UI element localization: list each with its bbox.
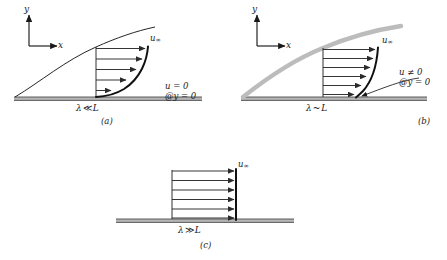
velocity-profile-curve-a xyxy=(96,47,148,98)
regime-length-a: L xyxy=(93,103,99,113)
freestream-velocity-label-c: u∞ xyxy=(238,160,249,171)
x-axis-label-b: x xyxy=(286,40,291,50)
panel-caption-c: (c) xyxy=(200,241,211,251)
velocity-arrows-b xyxy=(323,50,375,95)
regime-operator-c: ≫ xyxy=(184,225,195,235)
regime-label-a: λ≪L xyxy=(76,103,99,113)
flow-regimes-figure: y x u∞ u = 0 @y = 0 λ≪L (a) xyxy=(0,0,447,260)
freestream-subscript-c: ∞ xyxy=(243,162,248,170)
freestream-subscript-a: ∞ xyxy=(155,36,160,44)
axes-a xyxy=(29,15,57,46)
freestream-velocity-label-a: u∞ xyxy=(150,34,161,45)
wall-condition-a-line2: @y = 0 xyxy=(165,92,196,102)
panel-caption-a: (a) xyxy=(101,117,113,127)
flat-plate-c xyxy=(116,219,294,222)
regime-operator-a: ≪ xyxy=(82,103,93,113)
panel-c-graphic xyxy=(110,150,340,260)
wall-condition-a: u = 0 @y = 0 xyxy=(165,82,196,102)
flat-plate-b xyxy=(241,97,427,100)
regime-operator-b: ~ xyxy=(312,103,322,113)
freestream-velocity-label-b: u∞ xyxy=(382,36,393,47)
panel-b-graphic xyxy=(223,0,447,130)
regime-lambda-b: λ xyxy=(306,103,312,113)
wall-condition-b-line2: @y = 0 xyxy=(399,78,430,88)
panel-a: y x u∞ u = 0 @y = 0 λ≪L (a) xyxy=(0,0,223,130)
axes-b xyxy=(257,15,285,46)
regime-label-c: λ≫L xyxy=(178,225,201,235)
regime-lambda-a: λ xyxy=(76,103,82,113)
y-axis-label-a: y xyxy=(24,4,29,14)
boundary-layer-edge-b xyxy=(243,26,401,97)
regime-label-b: λ~L xyxy=(306,103,327,113)
panel-b: y x u∞ u ≠ 0 @y = 0 λ~L (b) xyxy=(223,0,447,130)
panel-a-graphic xyxy=(0,0,223,130)
regime-lambda-c: λ xyxy=(178,225,184,235)
regime-length-c: L xyxy=(195,225,201,235)
wall-condition-b: u ≠ 0 @y = 0 xyxy=(399,68,430,88)
panel-caption-b: (b) xyxy=(418,117,430,127)
velocity-arrows-c xyxy=(172,171,234,218)
regime-length-b: L xyxy=(321,103,327,113)
y-axis-label-b: y xyxy=(252,4,257,14)
panel-c: u∞ λ≫L (c) xyxy=(110,150,340,260)
x-axis-label-a: x xyxy=(58,40,63,50)
velocity-arrows-a xyxy=(96,49,145,91)
freestream-subscript-b: ∞ xyxy=(387,38,392,46)
boundary-layer-edge-a xyxy=(15,27,155,97)
velocity-profile-curve-b xyxy=(356,48,378,98)
